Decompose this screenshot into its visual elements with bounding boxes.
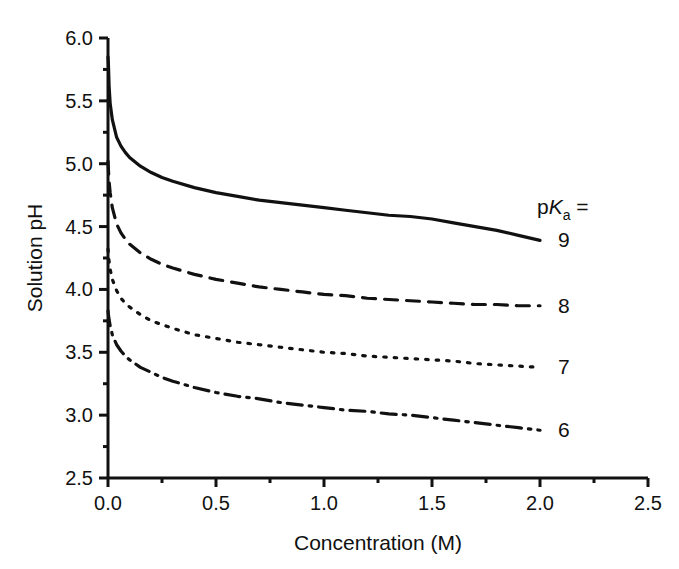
y-tick-label: 4.0 [65, 278, 93, 300]
x-tick-label: 1.0 [310, 492, 338, 514]
series-end-label-9: 9 [558, 228, 570, 251]
chart-figure-root: 2.53.03.54.04.55.05.56.00.00.51.01.52.02… [0, 0, 679, 569]
x-tick-label: 2.0 [526, 492, 554, 514]
chart-canvas: 2.53.03.54.04.55.05.56.00.00.51.01.52.02… [0, 0, 679, 569]
x-tick-label: 1.5 [418, 492, 446, 514]
y-tick-label: 6.0 [65, 27, 93, 49]
y-axis-title: Solution pH [23, 204, 46, 313]
y-tick-label: 4.5 [65, 216, 93, 238]
x-tick-label: 0.0 [94, 492, 122, 514]
series-end-label-8: 8 [558, 294, 570, 317]
x-tick-label: 0.5 [202, 492, 230, 514]
y-tick-label: 5.0 [65, 153, 93, 175]
y-tick-label: 3.5 [65, 341, 93, 363]
series-line-6 [108, 311, 540, 430]
series-end-label-7: 7 [558, 355, 570, 378]
x-axis-title: Concentration (M) [294, 531, 462, 554]
x-tick-label: 2.5 [634, 492, 662, 514]
y-tick-label: 2.5 [65, 467, 93, 489]
series-end-label-6: 6 [558, 418, 570, 441]
chart-figure: 2.53.03.54.04.55.05.56.00.00.51.01.52.02… [0, 0, 679, 569]
series-line-9 [108, 57, 540, 241]
y-tick-label: 5.5 [65, 90, 93, 112]
y-tick-label: 3.0 [65, 404, 93, 426]
legend-title: pKa = [537, 195, 589, 223]
